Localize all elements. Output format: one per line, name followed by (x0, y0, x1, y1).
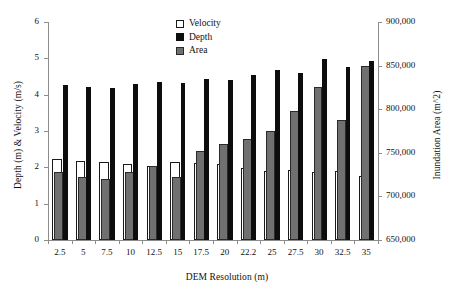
x-axis-tick (72, 240, 73, 244)
bar-depth (133, 84, 138, 240)
right-axis-tick (378, 196, 382, 197)
right-axis-tick (378, 109, 382, 110)
bar-group (237, 22, 261, 240)
left-axis-tick (44, 131, 48, 132)
left-axis-tick-label: 0 (35, 234, 40, 244)
x-axis-tick (260, 240, 261, 244)
legend-label-velocity: Velocity (189, 17, 221, 31)
left-axis-tick (44, 167, 48, 168)
bar-depth (110, 88, 115, 240)
legend-label-depth: Depth (189, 31, 212, 45)
left-axis-tick-label: 5 (35, 52, 40, 62)
x-axis-tick (354, 240, 355, 244)
left-axis-tick-label: 6 (35, 16, 40, 26)
bar-group (331, 22, 355, 240)
x-axis-tick (48, 240, 49, 244)
bar-group (48, 22, 72, 240)
bar-depth (157, 82, 162, 240)
bar-depth (346, 67, 351, 240)
x-axis-tick (189, 240, 190, 244)
left-axis-tick (44, 95, 48, 96)
x-axis-tick (213, 240, 214, 244)
left-axis-tick-label: 4 (35, 89, 40, 99)
x-axis-tick (378, 240, 379, 244)
bar-group (307, 22, 331, 240)
x-axis-tick (237, 240, 238, 244)
left-axis-tick-label: 3 (35, 125, 40, 135)
bar-group (72, 22, 96, 240)
left-axis-title: Depth (m) & Velocity (m/s) (13, 55, 23, 215)
right-axis-tick-label: 700,000 (386, 190, 415, 200)
right-axis-tick (378, 66, 382, 67)
x-axis-tick (166, 240, 167, 244)
x-axis-tick (95, 240, 96, 244)
bar-depth (228, 80, 233, 240)
right-axis-line (378, 22, 379, 240)
right-axis-tick (378, 153, 382, 154)
right-axis-tick-label: 750,000 (386, 147, 415, 157)
left-axis-tick-label: 1 (35, 198, 40, 208)
chart-figure: Depth (m) & Velocity (m/s) Inundation Ar… (0, 0, 454, 292)
x-axis-tick (119, 240, 120, 244)
left-axis-tick (44, 58, 48, 59)
legend-swatch-depth-icon (176, 33, 184, 41)
left-axis-tick (44, 22, 48, 23)
left-axis-tick (44, 240, 48, 241)
x-axis-tick (331, 240, 332, 244)
legend-item-depth: Depth (176, 31, 221, 45)
bar-group (260, 22, 284, 240)
x-axis-tick (307, 240, 308, 244)
right-axis-title: Inundation Area (m^2) (432, 55, 442, 215)
bar-group (354, 22, 378, 240)
x-axis-tick-label: 35 (348, 247, 384, 257)
legend-swatch-velocity-icon (176, 20, 184, 28)
bar-depth (298, 73, 303, 240)
right-axis-tick-label: 800,000 (386, 103, 415, 113)
legend-label-area: Area (189, 44, 207, 58)
bar-depth (369, 61, 374, 240)
right-axis-tick (378, 22, 382, 23)
bar-depth (181, 83, 186, 240)
right-axis-tick-label: 850,000 (386, 60, 415, 70)
legend-item-area: Area (176, 44, 221, 58)
legend-swatch-area-icon (176, 47, 184, 55)
bar-group (284, 22, 308, 240)
bar-group (119, 22, 143, 240)
bar-group (142, 22, 166, 240)
right-axis-tick-label: 900,000 (386, 16, 415, 26)
chart-legend: Velocity Depth Area (176, 17, 221, 58)
bar-depth (251, 75, 256, 240)
bar-depth (322, 59, 327, 240)
x-axis-tick (142, 240, 143, 244)
bar-depth (63, 85, 68, 240)
bar-group (95, 22, 119, 240)
right-axis-tick-label: 650,000 (386, 234, 415, 244)
legend-item-velocity: Velocity (176, 17, 221, 31)
left-axis-tick (44, 204, 48, 205)
bar-depth (275, 70, 280, 240)
x-axis-tick (284, 240, 285, 244)
bar-depth (86, 87, 91, 240)
x-axis-title: DEM Resolution (m) (0, 272, 454, 282)
left-axis-tick-label: 2 (35, 161, 40, 171)
bar-depth (204, 79, 209, 240)
